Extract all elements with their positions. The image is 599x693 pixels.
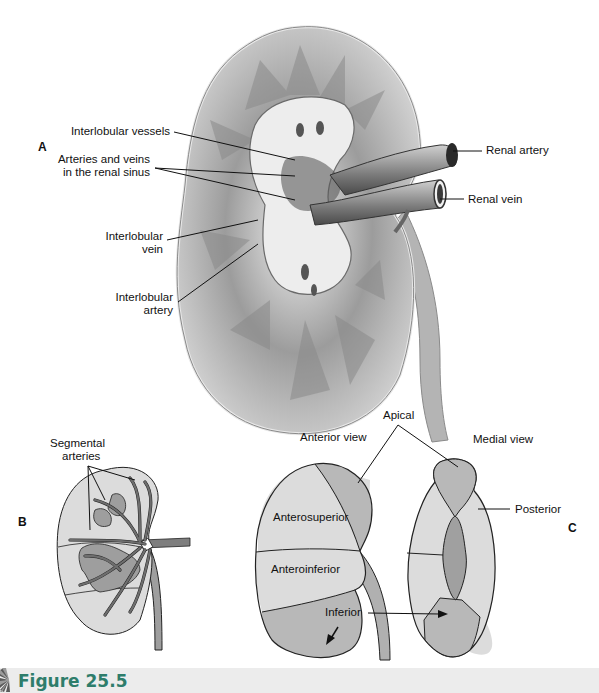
figure-badge-icon bbox=[0, 668, 18, 692]
label-anterosuperior: Anterosuperior bbox=[273, 511, 348, 524]
figure-caption-bar: Figure 25.5 bbox=[0, 668, 599, 693]
label-posterior: Posterior bbox=[515, 503, 561, 516]
renal-segments-diagram bbox=[0, 0, 599, 693]
label-anterior-view: Anterior view bbox=[300, 431, 366, 444]
panel-label-c: C bbox=[568, 521, 577, 535]
label-medial-view: Medial view bbox=[473, 433, 533, 446]
label-anteroinferior: Anteroinferior bbox=[271, 563, 340, 576]
label-apical: Apical bbox=[383, 409, 414, 422]
figure-caption: Figure 25.5 bbox=[18, 671, 128, 691]
label-inferior: Inferior bbox=[325, 606, 361, 619]
